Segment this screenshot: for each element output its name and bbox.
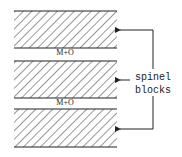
annotation-label-line2: blocks [135, 85, 171, 96]
spinel-block-bottom [14, 109, 117, 147]
mo-layer-label-1: M+O [56, 48, 74, 57]
mo-layer-label-2: M+O [56, 98, 74, 107]
spinel-block-middle [14, 61, 117, 98]
annotation-label-line1: spinel [135, 72, 171, 83]
spinel-block-top [14, 11, 117, 48]
spinel-structure-diagram: M+O M+O spinel blocks [0, 0, 182, 157]
